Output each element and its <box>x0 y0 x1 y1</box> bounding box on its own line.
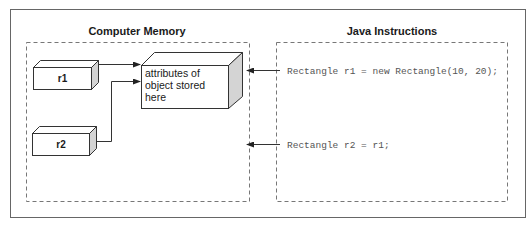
variable-label-r2: r2 <box>56 139 66 150</box>
object-box: attributes of object stored here <box>142 53 243 109</box>
variable-label-r1: r1 <box>58 73 68 84</box>
memory-panel-title: Computer Memory <box>88 25 186 37</box>
variable-box-r2: r2 <box>33 127 97 156</box>
object-box-text-line-1: attributes of <box>145 67 200 79</box>
object-box-text-line-2: object stored <box>145 79 205 91</box>
reference-diagram: Computer Memory Java Instructions r1 r2 … <box>0 0 531 226</box>
object-box-text-line-3: here <box>145 91 166 103</box>
instructions-panel-title: Java Instructions <box>347 25 437 37</box>
java-statement-2: Rectangle r2 = r1; <box>287 140 390 151</box>
java-statement-1: Rectangle r1 = new Rectangle(10, 20); <box>287 66 498 77</box>
variable-box-r1: r1 <box>34 61 99 90</box>
outer-frame <box>11 10 526 218</box>
